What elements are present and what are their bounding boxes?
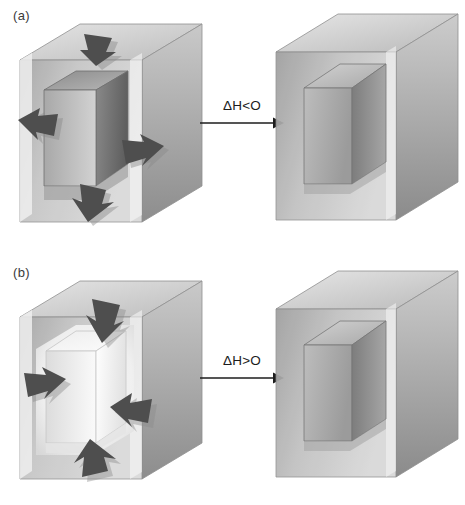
exothermic-product-box bbox=[268, 6, 460, 241]
endothermic-product-box bbox=[268, 263, 460, 498]
panel-b: (b) bbox=[0, 255, 465, 505]
exothermic-reactant-svg bbox=[6, 14, 202, 240]
endothermic-product-svg bbox=[268, 263, 460, 498]
endothermic-reactant-svg bbox=[6, 271, 202, 497]
endothermic-reactant-box bbox=[6, 271, 202, 497]
product-cavity bbox=[304, 64, 386, 194]
exothermic-reactant-box bbox=[6, 14, 202, 240]
panel-a: (a) bbox=[0, 0, 465, 250]
product-cavity bbox=[304, 321, 386, 451]
exothermic-product-svg bbox=[268, 6, 460, 241]
thermochemistry-figure: (a) bbox=[0, 0, 465, 505]
